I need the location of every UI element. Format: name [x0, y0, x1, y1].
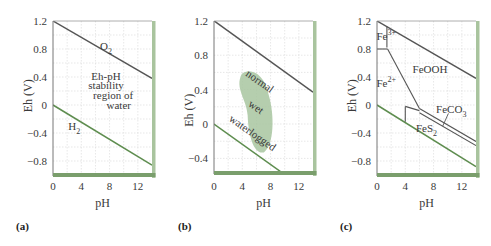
annotation-h2: H2	[68, 120, 80, 136]
y-tick-label: −0.4	[27, 127, 47, 139]
x-tick-label: 0	[374, 180, 380, 192]
y-tick-label: 0.4	[357, 71, 371, 83]
y-tick-label: −0.4	[188, 152, 208, 164]
y-tick-label: 0	[203, 118, 209, 130]
panel-a: 1.20.80.40−0.4−0.804812pHEh (V)(a)O2Eh-p…	[16, 15, 156, 233]
x-tick-label: 8	[268, 180, 274, 192]
x-tick-label: 4	[403, 180, 409, 192]
x-tick-label: 12	[293, 180, 304, 192]
x-tick-label: 8	[107, 180, 113, 192]
y-tick-label: −0.4	[351, 127, 371, 139]
x-axis-label: pH	[419, 196, 434, 210]
y-axis-label: Eh (V)	[345, 79, 359, 112]
y-tick-label: 1.2	[33, 15, 47, 27]
y-tick-label: 1.2	[357, 15, 371, 27]
y-axis-label: Eh (V)	[21, 79, 35, 112]
x-tick-label: 12	[456, 180, 467, 192]
annotation-feooh: FeOOH	[413, 63, 448, 75]
right-axis-bar	[313, 21, 317, 176]
eh-ph-figure: 1.20.80.40−0.4−0.804812pHEh (V)(a)O2Eh-p…	[0, 0, 491, 246]
panel-label: (a)	[16, 220, 29, 233]
x-tick-label: 12	[132, 180, 143, 192]
annotation-water: water	[107, 99, 132, 111]
panel-label: (c)	[340, 220, 353, 233]
annotation-o2: O2	[100, 40, 112, 56]
x-tick-label: 0	[211, 180, 217, 192]
x-tick-label: 4	[79, 180, 85, 192]
x-tick-label: 4	[240, 180, 246, 192]
y-tick-label: 0	[366, 99, 372, 111]
x-axis-bar	[53, 173, 156, 177]
annotation-fe2-: Fe2+	[376, 75, 396, 89]
y-tick-label: −0.8	[27, 155, 47, 167]
y-tick-label: 0.8	[357, 43, 371, 55]
y-tick-label: 1.2	[194, 15, 208, 27]
annotation-feco3: FeCO3	[436, 103, 466, 119]
x-tick-label: 8	[431, 180, 437, 192]
x-axis-label: pH	[256, 196, 271, 210]
x-axis-bar	[377, 173, 480, 177]
grid	[377, 21, 476, 176]
y-tick-label: 0.4	[33, 71, 47, 83]
y-tick-label: −0.8	[351, 155, 371, 167]
y-tick-label: 0.8	[194, 49, 208, 61]
y-tick-label: 0.4	[194, 84, 208, 96]
panel-label: (b)	[178, 220, 192, 233]
right-axis-bar	[152, 21, 156, 178]
line-h2	[53, 105, 152, 165]
x-tick-label: 0	[50, 180, 56, 192]
right-axis-bar	[476, 21, 480, 178]
y-tick-label: 0	[42, 99, 48, 111]
x-axis-bar	[214, 171, 317, 175]
line-fe2-fes2-top	[405, 106, 419, 110]
x-axis-label: pH	[95, 196, 110, 210]
annotation-fe3-: Fe3+	[376, 28, 396, 42]
y-tick-label: 0.8	[33, 43, 47, 55]
y-axis-label: Eh (V)	[182, 94, 196, 127]
panel-c: 1.20.80.40−0.4−0.804812pHEh (V)(c)Fe3+Fe…	[340, 15, 480, 233]
panel-b: 1.20.80.40−0.404812pHEh (V)(b)normalwetw…	[178, 15, 317, 233]
